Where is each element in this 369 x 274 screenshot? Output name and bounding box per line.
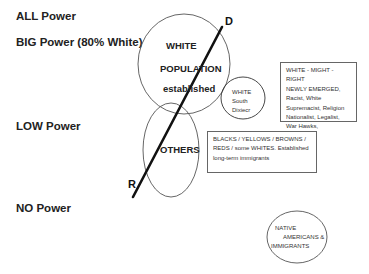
native-line-1: NATIVE xyxy=(271,224,324,233)
axis-label-d: D xyxy=(225,15,233,27)
native-line-3: IMMIGRANTS xyxy=(271,242,324,251)
axis-label-r: R xyxy=(128,178,136,190)
might-right-line-1: WHITE - MIGHT - RIGHT xyxy=(286,66,351,85)
might-right-line-5: Nationalist, Legalist, xyxy=(286,113,351,122)
white-south-line-3: Dixiecr xyxy=(232,106,251,115)
label-white: WHITE xyxy=(166,40,197,51)
others-desc-line-2: REDS / some WHITES. Established xyxy=(213,144,311,153)
others-description-box: BLACKS / YELLOWS / BROWNS / REDS / some … xyxy=(207,131,317,173)
label-others: OTHERS xyxy=(160,144,200,155)
white-south-line-2: South xyxy=(232,97,251,106)
native-line-2: AMERICANS & xyxy=(271,233,324,242)
label-established: established xyxy=(163,83,215,94)
label-population: POPULATION xyxy=(160,63,222,74)
might-right-line-4: Supremacist, Religion xyxy=(286,104,351,113)
others-desc-line-3: long-term immigrants xyxy=(213,154,311,163)
might-right-box: WHITE - MIGHT - RIGHT NEWLY EMERGED, Rac… xyxy=(280,62,357,122)
white-south-text: WHITE South Dixiecr xyxy=(232,88,251,116)
might-right-line-2: NEWLY EMERGED, xyxy=(286,85,351,94)
might-right-line-3: Racist, White xyxy=(286,94,351,103)
others-desc-line-1: BLACKS / YELLOWS / BROWNS / xyxy=(213,135,311,144)
native-text: NATIVE AMERICANS & IMMIGRANTS xyxy=(271,224,324,252)
white-south-line-1: WHITE xyxy=(232,88,251,97)
